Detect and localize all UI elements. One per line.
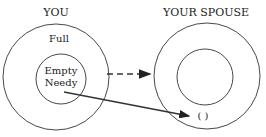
diagram: YOU Full Empty Needy YOUR SPOUSE ( ) [0,0,266,137]
solid-arrow [64,92,189,116]
you-title: YOU [42,6,69,19]
full-label: Full [49,33,69,44]
spouse-title: YOUR SPOUSE [162,6,249,19]
needy-label: Needy [45,77,78,88]
diagram-svg: YOU Full Empty Needy YOUR SPOUSE ( ) [0,0,266,137]
target-parens: ( ) [198,110,209,121]
empty-label: Empty [45,65,78,76]
spouse-inner-circle [177,49,233,105]
